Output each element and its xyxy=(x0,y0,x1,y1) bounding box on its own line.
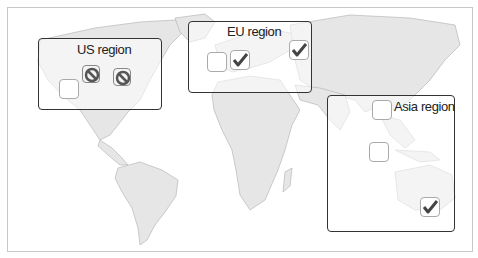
eu-region-title: EU region xyxy=(227,24,281,39)
asia-marker-empty-2[interactable] xyxy=(369,142,389,162)
us-marker-empty[interactable] xyxy=(59,79,79,99)
eu-region-box: EU region xyxy=(188,21,312,93)
asia-region-title: Asia region xyxy=(394,99,455,114)
check-icon xyxy=(421,198,439,216)
us-region-title: US region xyxy=(77,42,131,57)
us-marker-blocked-2[interactable] xyxy=(113,68,131,86)
blocked-icon xyxy=(114,69,132,87)
check-icon xyxy=(290,41,308,59)
us-marker-blocked-1[interactable] xyxy=(82,65,100,83)
eu-marker-checked-1[interactable] xyxy=(230,50,250,70)
asia-marker-empty-1[interactable] xyxy=(372,100,392,120)
eu-marker-empty[interactable] xyxy=(207,52,227,72)
eu-marker-checked-2[interactable] xyxy=(289,40,309,60)
check-icon xyxy=(231,51,249,69)
blocked-icon xyxy=(83,66,101,84)
asia-marker-checked[interactable] xyxy=(420,197,440,217)
asia-region-box: Asia region xyxy=(327,95,455,232)
us-region-box: US region xyxy=(38,38,162,110)
